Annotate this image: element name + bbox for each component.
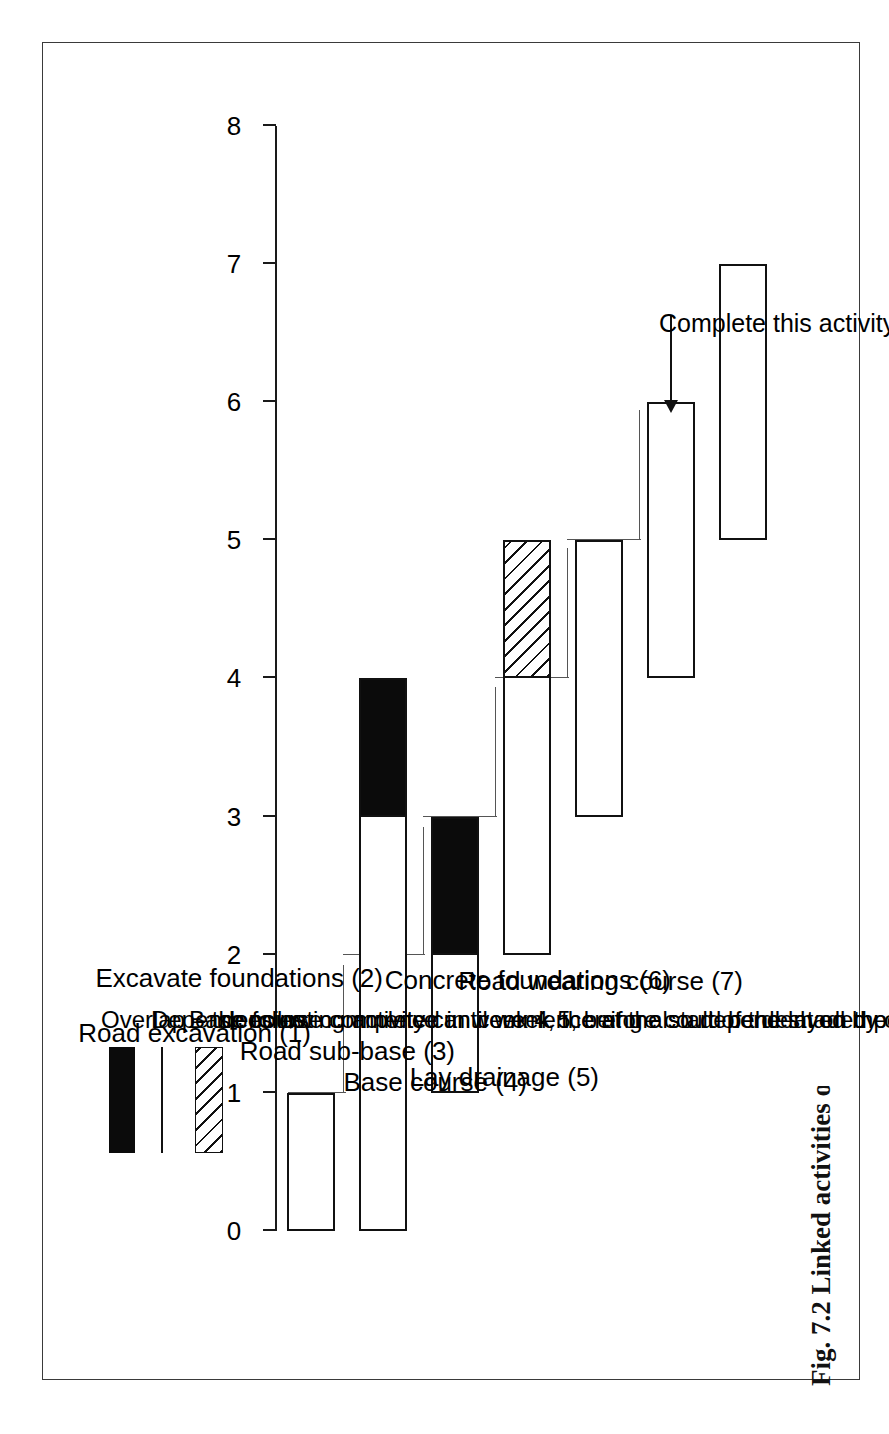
gantt-bar-road-excavation[interactable] — [287, 1093, 335, 1231]
x-tick-3 — [263, 815, 276, 817]
dependency-line-2-5 — [495, 687, 496, 817]
x-tick-4 — [263, 676, 276, 678]
x-tick-1 — [263, 1091, 276, 1093]
x-tick-8 — [263, 124, 276, 126]
x-tick-label-0: 0 — [214, 1218, 254, 1244]
row-label-excavate-foundations: Excavate foundations (2) — [95, 965, 383, 991]
x-tick-0 — [263, 1229, 276, 1231]
x-tick-5 — [263, 538, 276, 540]
overlap-segment-excavate-foundations — [361, 680, 405, 817]
dependency-line-2-6 — [567, 548, 568, 678]
gantt-chart-stage: 0 1 2 3 4 5 6 7 8 — [43, 43, 861, 1381]
x-tick-6 — [263, 400, 276, 402]
float-segment-base-course — [505, 542, 549, 678]
annotation-complete-this-activity: Complete this activity — [659, 309, 889, 338]
overlap-segment-road-sub-base — [433, 819, 477, 955]
x-tick-label-6: 6 — [214, 389, 254, 415]
figure-border: 0 1 2 3 4 5 6 7 8 — [42, 42, 860, 1380]
dependency-line-4-7 — [639, 410, 640, 540]
legend-swatch-dependencies — [161, 1047, 163, 1153]
x-tick-7 — [263, 262, 276, 264]
x-tick-label-7: 7 — [214, 251, 254, 277]
x-tick-label-5: 5 — [214, 527, 254, 553]
gantt-plot: 0 1 2 3 4 5 6 7 8 — [43, 43, 861, 1381]
legend-swatch-float — [195, 1047, 223, 1153]
legend-swatch-overlap — [109, 1047, 135, 1153]
gantt-bar-excavate-foundations[interactable] — [359, 678, 407, 1231]
x-tick-2 — [263, 953, 276, 955]
gantt-bar-concrete-foundations[interactable] — [647, 402, 695, 678]
row-label-road-sub-base: Road sub-base (3) — [240, 1038, 455, 1064]
dependency-line-2-4 — [423, 827, 424, 955]
x-tick-label-4: 4 — [214, 665, 254, 691]
row-label-road-wearing-course: Road wearing course (7) — [458, 968, 743, 994]
annotation-arrow-head — [664, 400, 678, 413]
x-tick-label-3: 3 — [214, 804, 254, 830]
figure-caption: Fig. 7.2 Linked activities of activities — [806, 1086, 850, 1386]
gantt-bar-base-course[interactable] — [503, 540, 551, 955]
legend-text-float-line2: does not commence until week 5, being al… — [221, 1005, 889, 1035]
gantt-bar-lay-drainage[interactable] — [575, 540, 623, 817]
gantt-bar-road-wearing-course[interactable] — [719, 264, 767, 540]
row-label-lay-drainage: Lay drainage (5) — [410, 1064, 599, 1090]
x-tick-label-8: 8 — [214, 113, 254, 139]
